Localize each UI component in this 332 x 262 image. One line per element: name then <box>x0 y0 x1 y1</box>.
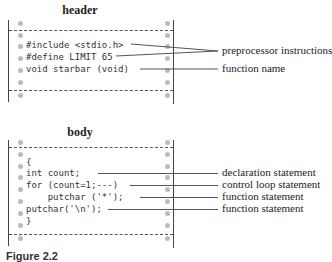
margin-dot <box>165 152 170 157</box>
body-bottom-divider <box>9 234 173 235</box>
margin-dot <box>165 236 170 241</box>
annotation-preprocessor: preprocessor instructions <box>222 44 332 56</box>
annotation-control-loop: control loop statement <box>222 178 320 190</box>
margin-dot <box>18 164 23 169</box>
margin-dot <box>18 187 23 192</box>
margin-dot <box>165 187 170 192</box>
code-line-close-brace: } <box>26 216 31 227</box>
code-line-putchar-newline: putchar('\n'); <box>26 204 102 215</box>
annotation-function-statement-1: function statement <box>222 190 304 202</box>
body-right-border <box>173 140 174 248</box>
code-line-declaration: int count; <box>26 168 80 179</box>
code-line-open-brace: { <box>26 157 31 168</box>
annotation-function-statement-2: function statement <box>222 202 304 214</box>
margin-dot <box>165 140 170 145</box>
figure-caption: Figure 2.2 <box>6 250 58 262</box>
annotation-function-name: function name <box>222 62 285 74</box>
margin-dot <box>18 175 23 180</box>
leader-function-statement-1 <box>140 197 218 198</box>
margin-dot <box>165 223 170 228</box>
annotation-declaration: declaration statement <box>222 166 316 178</box>
margin-dot <box>18 223 23 228</box>
leader-function-statement-2 <box>108 209 218 210</box>
margin-dot <box>18 152 23 157</box>
margin-dot <box>18 211 23 216</box>
margin-dot <box>165 199 170 204</box>
margin-dot <box>18 199 23 204</box>
code-line-for-loop: for (count=1;---) <box>26 180 118 191</box>
margin-dot <box>165 175 170 180</box>
margin-dot <box>18 140 23 145</box>
margin-dot <box>165 164 170 169</box>
body-title: body <box>0 125 160 140</box>
leader-control-loop <box>130 185 218 186</box>
code-line-putchar-star: putchar ('*'); <box>26 192 124 203</box>
leader-declaration <box>98 173 218 174</box>
body-left-border <box>8 140 9 246</box>
body-top-divider <box>9 147 173 148</box>
margin-dot <box>165 211 170 216</box>
margin-dot <box>18 236 23 241</box>
